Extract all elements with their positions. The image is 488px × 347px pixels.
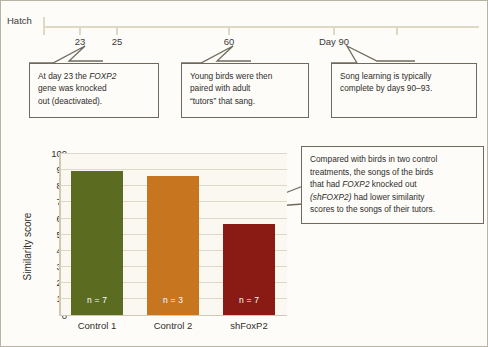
callout-results-line2: treatments, the songs of the birds (310, 167, 433, 177)
callout-song-learning: Song learning is typically complete by d… (331, 63, 477, 118)
callout-song-learning-line1: Song learning is typically (340, 71, 431, 81)
callout-results-line5: scores to the songs of their tutors. (310, 204, 435, 214)
callout-foxp2-line3: out (deactivated). (38, 96, 102, 106)
x-tick-label-2: shFoxP2 (230, 320, 268, 331)
callout-tutors-line2: paired with adult (190, 83, 250, 93)
callout-foxp2-gene-name: FOXP2 (89, 71, 116, 81)
bar-control-1[interactable]: n = 7 (71, 171, 123, 315)
callout-results-line4b: had lower similarity (352, 192, 425, 202)
callout-song-learning-tail (331, 45, 441, 65)
timeline-tick-2 (228, 26, 230, 35)
callout-results-line1: Compared with birds in two control (310, 154, 437, 164)
callout-results-shfoxp2: (shFOXP2) (310, 192, 352, 202)
callout-results-gene-name: FOXP2 (342, 179, 369, 189)
callout-tutors-tail (181, 45, 281, 65)
gridline-100 (59, 153, 287, 154)
x-axis-line (59, 315, 287, 317)
bar-control-2[interactable]: n = 3 (147, 176, 199, 315)
callout-foxp2-line2: gene was knocked (38, 83, 107, 93)
callout-tutors-line3: “tutors” that sang. (190, 96, 255, 106)
y-axis-line (59, 153, 61, 316)
callout-foxp2-knockout: At day 23 the FOXP2 gene was knocked out… (29, 63, 159, 118)
callout-results: Compared with birds in two control treat… (301, 146, 484, 224)
callout-song-learning-line2: complete by days 90–93. (340, 83, 432, 93)
callout-foxp2-knockout-tail (29, 45, 129, 65)
callout-foxp2-line1: At day 23 the (38, 71, 89, 81)
timeline-tick-3 (333, 26, 335, 35)
timeline-origin-label: Hatch (7, 15, 32, 26)
x-tick-label-1: Control 2 (154, 320, 193, 331)
timeline-tick-1 (116, 26, 118, 35)
callout-results-line3b: knocked out (370, 179, 417, 189)
bar-shfoxp2[interactable]: n = 7 (223, 224, 275, 314)
timeline-axis-line (43, 26, 479, 28)
callout-tutors-line1: Young birds were then (190, 71, 272, 81)
x-tick-label-0: Control 1 (78, 320, 117, 331)
plot-area: n = 7n = 3n = 7 (59, 153, 287, 316)
callout-results-line3a: that had (310, 179, 342, 189)
bar-sample-size-label: n = 7 (223, 295, 275, 305)
bar-chart: Similarity score 0102030405060708090100 … (1, 149, 301, 347)
timeline-tick-0 (79, 26, 81, 35)
bar-sample-size-label: n = 7 (71, 295, 123, 305)
figure-root: Hatch 232560Day 90 At day 23 the FOXP2 g… (0, 0, 488, 347)
callout-tutors: Young birds were then paired with adult … (181, 63, 309, 118)
bar-sample-size-label: n = 3 (147, 295, 199, 305)
timeline-tick-4 (396, 26, 398, 35)
y-axis-title: Similarity score (22, 172, 33, 322)
